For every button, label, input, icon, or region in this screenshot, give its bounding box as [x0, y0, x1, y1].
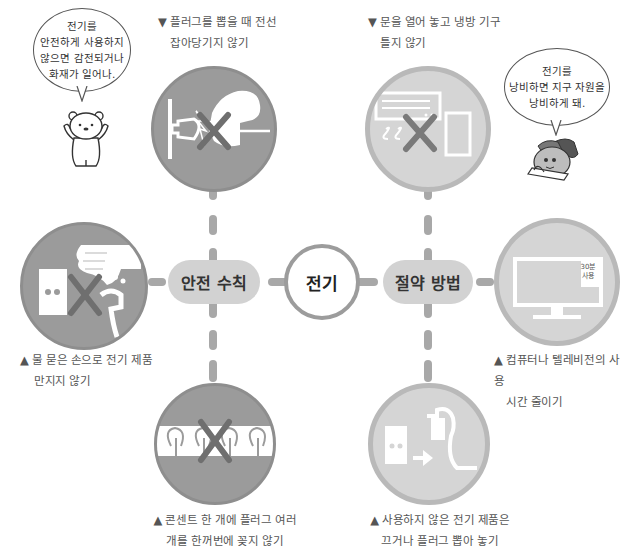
connector-dash — [476, 278, 494, 286]
connector-dash — [424, 360, 432, 382]
character-speech-bubble: 전기를 낭비하면 지구 자원을 낭비하게 돼. — [504, 48, 610, 126]
connector-dash — [424, 215, 432, 235]
wet-hand-outlet-icon — [23, 225, 145, 347]
caption-saving-top: ▼ 문을 열어 놓고 냉방 기구 틀지 않기 — [368, 12, 500, 54]
branch-label: 안전 수칙 — [181, 270, 247, 294]
connector-dash — [209, 330, 217, 350]
speech-tail — [76, 86, 88, 102]
branch-label: 절약 방법 — [395, 270, 461, 294]
saving-bottom-circle — [368, 383, 490, 505]
saving-right-circle: 30분 사용 — [494, 218, 620, 346]
connector-dash — [424, 330, 432, 350]
safety-left-circle — [20, 222, 148, 350]
center-node-electricity: 전기 — [284, 244, 360, 320]
caption-safety-left: ▲ 물 묻은 손으로 전기 제품 만지지 않기 — [20, 350, 152, 392]
pull-plug-cord-icon — [154, 69, 274, 189]
safety-bottom-circle — [154, 383, 276, 505]
saving-top-circle — [365, 66, 491, 192]
caption-safety-bottom: ▲ 콘센트 한 개에 플러그 여러 개를 한꺼번에 꽂지 않기 — [150, 510, 300, 552]
center-label: 전기 — [306, 270, 338, 295]
unplug-icon — [373, 388, 485, 500]
monitor-icon — [499, 223, 615, 341]
safety-top-circle — [151, 66, 277, 192]
air-conditioner-open-door-icon — [370, 71, 486, 187]
bear-character-icon — [58, 108, 114, 170]
caption-saving-bottom: ▲ 사용하지 않은 전기 제품은 끄거나 플러그 뽑아 놓기 — [365, 510, 515, 552]
screen-usage-label: 30분 사용 — [575, 263, 601, 281]
caption-saving-right: ▲ 컴퓨터나 텔레비전의 사용 시간 줄이기 — [494, 350, 620, 413]
connector-dash — [209, 215, 217, 235]
branch-saving-methods: 절약 방법 — [383, 260, 473, 304]
connector-dash — [209, 360, 217, 382]
bear-speech-bubble: 전기를 안전하게 사용하지 않으면 감전되거나 화재가 일어나. — [33, 8, 131, 92]
connector-dash — [148, 278, 166, 286]
branch-safety-rules: 안전 수칙 — [168, 260, 260, 304]
reading-character-icon — [524, 134, 590, 186]
caption-safety-top: ▼ 플러그를 뽑을 때 전선 잡아당기지 않기 — [158, 12, 276, 54]
multi-plug-outlet-icon — [157, 386, 273, 502]
